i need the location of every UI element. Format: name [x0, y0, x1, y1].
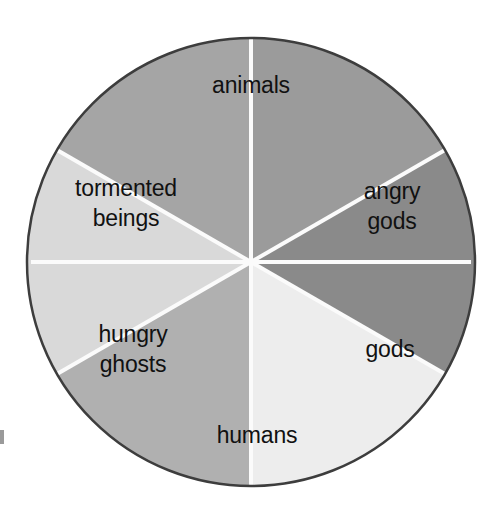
- edge-artifact-mark: [0, 430, 4, 444]
- label-hungry-ghosts-line-1: hungry: [98, 321, 168, 347]
- wheel-diagram: animals angry gods gods humans hungry gh…: [0, 0, 495, 523]
- label-animals: animals: [212, 72, 290, 98]
- label-angry-gods-line-2: gods: [367, 208, 416, 234]
- label-tormented-beings-line-2: beings: [93, 205, 160, 231]
- label-gods: gods: [365, 336, 414, 362]
- label-animals-line-1: animals: [212, 72, 290, 98]
- six-realms-wheel-figure: animals angry gods gods humans hungry gh…: [0, 0, 495, 523]
- label-humans-line-1: humans: [217, 422, 298, 448]
- label-humans: humans: [217, 422, 298, 448]
- label-tormented-beings-line-1: tormented: [75, 175, 177, 201]
- label-gods-line-1: gods: [365, 336, 414, 362]
- label-angry-gods-line-1: angry: [364, 178, 421, 204]
- label-hungry-ghosts-line-2: ghosts: [100, 351, 167, 377]
